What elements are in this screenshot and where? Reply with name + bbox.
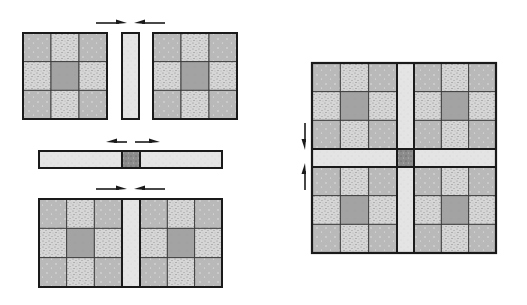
patch-solid (39, 199, 67, 228)
arrow-left-icon (134, 20, 165, 25)
patch-stipple (369, 92, 397, 121)
patch-solid (369, 120, 397, 149)
patch-solid (23, 90, 51, 119)
patch-stipple (340, 224, 368, 253)
patch-solid (312, 120, 340, 149)
patch-solid (414, 63, 441, 92)
patch-solid (195, 199, 222, 228)
patch-solid (195, 258, 222, 287)
patch-stipple (312, 196, 340, 225)
patch-stipple (51, 33, 79, 62)
patch-stipple (94, 228, 122, 257)
patch-solid (153, 90, 181, 119)
nine-patch-block-bottom-right (140, 199, 222, 287)
patch-stipple (51, 90, 79, 119)
arrow-right-icon (96, 20, 127, 25)
step3-group (39, 199, 222, 287)
patch-solid (94, 199, 122, 228)
patch-stipple (469, 92, 496, 121)
nine-patch-block-q3 (312, 167, 397, 253)
patch-solid (369, 63, 397, 92)
arrow-right-icon (96, 186, 127, 191)
patch-center (340, 196, 368, 225)
patch-stipple (369, 196, 397, 225)
patch-stipple (414, 92, 441, 121)
step2-group (39, 151, 222, 168)
nine-patch-block-q4 (414, 167, 496, 253)
patch-stipple (340, 120, 368, 149)
patch-stipple (39, 228, 67, 257)
patch-stipple (67, 258, 95, 287)
sashing-strip-vertical (122, 33, 139, 119)
patch-solid (469, 63, 496, 92)
patch-solid (23, 33, 51, 62)
patch-stipple (67, 199, 95, 228)
patch-stipple (469, 196, 496, 225)
patch-solid (369, 224, 397, 253)
patch-solid (209, 33, 237, 62)
patch-stipple (441, 63, 468, 92)
sashing-strip-vertical (122, 199, 140, 287)
patch-stipple (167, 258, 194, 287)
arrow-left-icon (106, 139, 127, 144)
cornerstone-square (122, 151, 140, 168)
arrow-up-icon (302, 163, 307, 190)
patch-stipple (195, 228, 222, 257)
patch-stipple (441, 167, 468, 196)
patch-stipple (209, 62, 237, 91)
patch-center (441, 196, 468, 225)
patch-solid (153, 33, 181, 62)
nine-patch-block-top-right (153, 33, 237, 119)
patch-solid (79, 90, 107, 119)
patch-solid (79, 33, 107, 62)
patch-center (441, 92, 468, 121)
patch-stipple (23, 62, 51, 91)
patch-stipple (441, 120, 468, 149)
patch-stipple (153, 62, 181, 91)
patch-stipple (79, 62, 107, 91)
patch-stipple (312, 92, 340, 121)
patch-stipple (181, 33, 209, 62)
nine-patch-block-q1 (312, 63, 397, 149)
arrow-down-icon (302, 123, 307, 150)
patch-solid (469, 167, 496, 196)
patch-stipple (340, 63, 368, 92)
patch-center (67, 228, 95, 257)
arrow-right-icon (135, 139, 160, 144)
patch-solid (469, 224, 496, 253)
patch-stipple (181, 90, 209, 119)
patch-solid (209, 90, 237, 119)
nine-patch-block-q2 (414, 63, 496, 149)
cornerstone-square (397, 149, 414, 167)
patch-stipple (140, 228, 167, 257)
patch-solid (312, 63, 340, 92)
patch-solid (414, 120, 441, 149)
patch-solid (312, 224, 340, 253)
patch-stipple (441, 224, 468, 253)
nine-patch-block-top-left (23, 33, 107, 119)
nine-patch-block-bottom-left (39, 199, 122, 287)
patch-stipple (340, 167, 368, 196)
patch-solid (39, 258, 67, 287)
patch-solid (94, 258, 122, 287)
arrow-left-icon (134, 186, 165, 191)
step1-group (23, 33, 237, 119)
assembled-quilt-group (312, 63, 496, 253)
patch-solid (369, 167, 397, 196)
patch-solid (469, 120, 496, 149)
patch-stipple (167, 199, 194, 228)
patch-center (181, 62, 209, 91)
quilt-assembly-diagram (0, 0, 527, 305)
patch-solid (140, 199, 167, 228)
patch-center (167, 228, 194, 257)
patch-stipple (414, 196, 441, 225)
patch-center (51, 62, 79, 91)
patch-solid (312, 167, 340, 196)
patch-center (340, 92, 368, 121)
patch-solid (140, 258, 167, 287)
patch-solid (414, 224, 441, 253)
patch-solid (414, 167, 441, 196)
